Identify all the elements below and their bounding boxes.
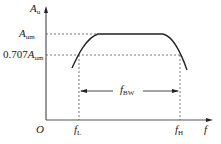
x-axis-label: f bbox=[204, 124, 207, 135]
fh-label: fH bbox=[175, 124, 183, 137]
frequency-response-plot bbox=[0, 0, 221, 144]
arrow-left-icon bbox=[80, 89, 87, 93]
y-axis-label: Au bbox=[30, 3, 40, 16]
half-power-label: 0.707Aum bbox=[3, 49, 43, 62]
response-curve bbox=[72, 34, 187, 70]
origin-label: O bbox=[36, 124, 44, 135]
aum-label: Aum bbox=[19, 28, 35, 41]
arrow-right-icon bbox=[172, 89, 179, 93]
bandwidth-label: fBW bbox=[120, 84, 134, 97]
fl-label: fL bbox=[74, 124, 81, 137]
x-axis-arrow-icon bbox=[206, 118, 213, 122]
y-axis-arrow-icon bbox=[44, 6, 48, 13]
